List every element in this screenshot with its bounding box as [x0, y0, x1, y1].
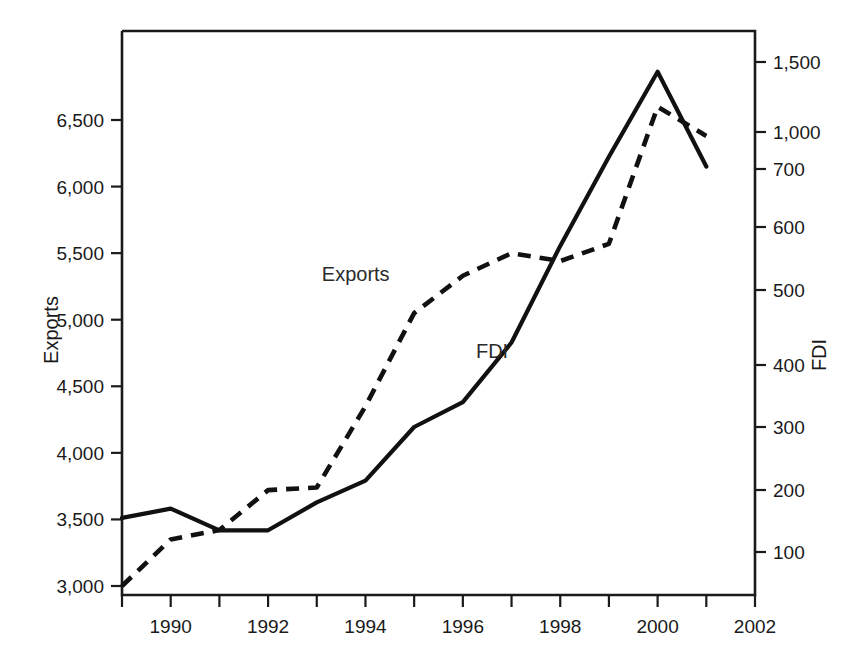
y-right-tick-label: 200	[773, 480, 805, 501]
series-label-fdi: FDI	[476, 340, 508, 362]
y-left-tick-label: 6,500	[56, 110, 104, 131]
x-tick-label: 1998	[539, 616, 581, 637]
y-left-tick-label: 5,500	[56, 243, 104, 264]
y-left-tick-label: 4,500	[56, 376, 104, 397]
series-label-exports: Exports	[322, 263, 390, 285]
y-axis-right-title: FDI	[808, 339, 830, 371]
y-right-tick-label: 600	[773, 217, 805, 238]
y-right-tick-label: 500	[773, 280, 805, 301]
y-axis-left-title: Exports	[40, 296, 62, 364]
x-tick-label: 2002	[734, 616, 776, 637]
line-chart: 6,5006,0005,5005,0004,5004,0003,5003,000…	[0, 0, 856, 660]
y-right-tick-label: 400	[773, 355, 805, 376]
y-left-tick-label: 5,000	[56, 310, 104, 331]
x-tick-label: 1996	[442, 616, 484, 637]
y-right-tick-label: 1,500	[773, 52, 821, 73]
y-left-tick-label: 3,000	[56, 576, 104, 597]
chart-container: 6,5006,0005,5005,0004,5004,0003,5003,000…	[0, 0, 856, 660]
y-left-tick-label: 3,500	[56, 509, 104, 530]
y-right-tick-label: 300	[773, 417, 805, 438]
x-tick-label: 1992	[247, 616, 289, 637]
x-tick-label: 1994	[344, 616, 387, 637]
x-tick-label: 2000	[636, 616, 678, 637]
x-tick-label: 1990	[150, 616, 192, 637]
chart-background	[0, 0, 856, 660]
y-left-tick-label: 4,000	[56, 443, 104, 464]
y-right-tick-label: 100	[773, 542, 805, 563]
y-right-tick-label: 700	[773, 159, 805, 180]
y-right-tick-label: 1,000	[773, 122, 821, 143]
y-left-tick-label: 6,000	[56, 177, 104, 198]
